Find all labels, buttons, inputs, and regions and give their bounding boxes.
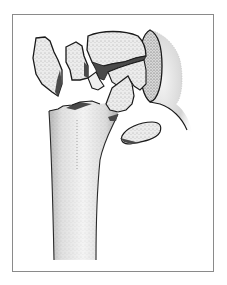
fragment-lower-right	[120, 122, 161, 144]
tuberosity-fragment	[106, 76, 134, 112]
fragment-left	[33, 37, 62, 96]
fragment-small	[66, 42, 88, 80]
humeral-shaft	[49, 101, 118, 260]
fracture-illustration	[0, 0, 227, 285]
glenoid	[140, 30, 192, 132]
